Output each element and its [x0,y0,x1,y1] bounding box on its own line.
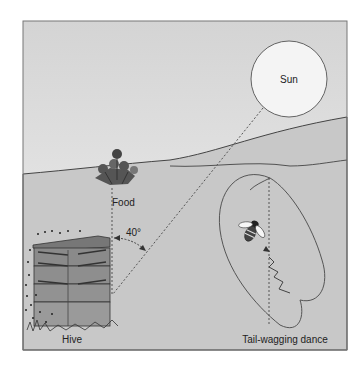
sun: Sun [251,41,327,117]
hive-icon [33,236,110,326]
sun-label: Sun [280,74,298,85]
waggle-dance-diagram: Sun Food 40° [0,0,364,369]
hive-label: Hive [62,334,82,345]
dance-label: Tail-wagging dance [242,334,328,345]
angle-label: 40° [126,227,141,238]
food-label: Food [112,197,135,208]
